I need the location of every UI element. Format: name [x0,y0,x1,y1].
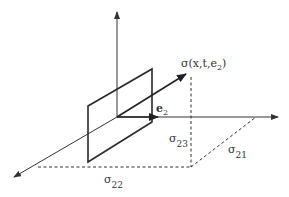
stress-vector-label: σ(x,t,e2) [181,57,226,72]
sigma21-label: σ21 [228,143,247,160]
depth-axis [14,117,117,177]
normal-label: e2 [156,102,168,117]
sigma23-label: σ23 [169,132,188,149]
stress-diagram: σ(x,t,e2) e2 σ23 σ21 σ22 [0,0,289,197]
sigma22-label: σ22 [104,173,123,190]
